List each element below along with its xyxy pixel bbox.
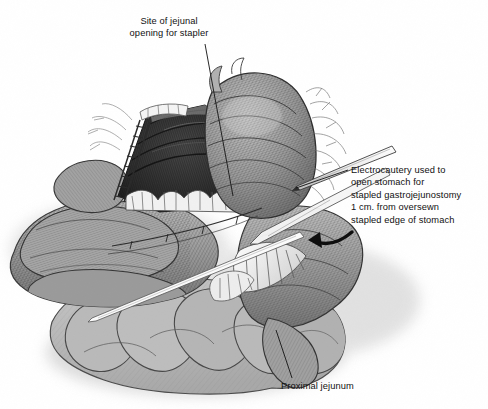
medical-illustration-figure: Site of jejunal opening for stapler Elec… [0,0,488,409]
label-site-of-jejunal-opening: Site of jejunal opening for stapler [113,15,225,40]
label-electrocautery: Electrocautery used to open stomach for … [351,164,487,226]
label-proximal-jejunum: Proximal jejunum [281,380,401,392]
